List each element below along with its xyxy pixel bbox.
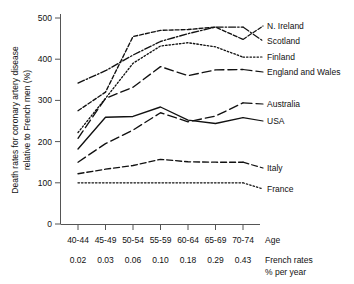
x-axis-secondary-title-line2: % per year xyxy=(265,267,306,277)
series-leader-england-and-wales xyxy=(243,70,263,73)
series-line-italy xyxy=(78,159,243,173)
line-chart: 0100200300400500 40-4445-4950-5455-5960-… xyxy=(0,0,354,284)
series-leader-france xyxy=(243,183,263,189)
series-label-france: France xyxy=(267,184,294,194)
x-axis-secondary-tick-labels: 0.020.030.060.100.180.290.43 xyxy=(70,255,252,265)
series-label-n-ireland: N. Ireland xyxy=(267,21,304,31)
series-line-scotland xyxy=(78,27,243,83)
x-secondary-tick-label: 0.10 xyxy=(152,255,169,265)
series-leader-scotland xyxy=(243,27,263,41)
x-tick-label: 65-69 xyxy=(205,235,227,245)
x-tick-label: 45-49 xyxy=(95,235,117,245)
series-label-scotland: Scotland xyxy=(267,36,300,46)
series-labels: N. IrelandScotlandFinlandEngland and Wal… xyxy=(267,21,340,194)
x-secondary-tick-label: 0.29 xyxy=(207,255,224,265)
x-secondary-tick-label: 0.02 xyxy=(70,255,87,265)
y-tick-label: 400 xyxy=(38,54,52,64)
x-axis-tick-labels: 40-4445-4950-5455-5960-6465-6970-74 xyxy=(67,235,254,245)
x-tick-label: 55-59 xyxy=(150,235,172,245)
x-secondary-tick-label: 0.18 xyxy=(180,255,197,265)
y-axis-tick-labels: 0100200300400500 xyxy=(38,13,52,229)
x-tick-label: 50-54 xyxy=(122,235,144,245)
x-tick-label: 70-74 xyxy=(232,235,254,245)
y-axis-title-line1: Death rates for coronary artery disease xyxy=(10,46,20,194)
x-axis-secondary-title-line1: French rates xyxy=(265,255,313,265)
chart-container: 0100200300400500 40-4445-4950-5455-5960-… xyxy=(0,0,354,284)
y-tick-label: 100 xyxy=(38,178,52,188)
series-leader-italy xyxy=(243,162,263,168)
series-leader-usa xyxy=(243,118,263,121)
series-leader-n-ireland xyxy=(243,26,263,39)
series-leader-lines xyxy=(243,26,263,189)
series-label-australia: Australia xyxy=(267,99,300,109)
y-tick-label: 0 xyxy=(47,219,52,229)
y-axis-title-line2: relative to French men (%) xyxy=(22,70,32,170)
y-tick-label: 500 xyxy=(38,13,52,23)
series-label-england-and-wales: England and Wales xyxy=(267,67,340,77)
x-secondary-tick-label: 0.06 xyxy=(125,255,142,265)
y-axis-ticks xyxy=(55,18,61,224)
series-line-england-and-wales xyxy=(78,67,243,139)
x-secondary-tick-label: 0.43 xyxy=(235,255,252,265)
series-line-n-ireland xyxy=(78,27,243,111)
series-line-finland xyxy=(78,43,243,133)
y-tick-label: 200 xyxy=(38,137,52,147)
series-label-usa: USA xyxy=(267,116,285,126)
series-leader-australia xyxy=(243,103,263,104)
x-axis-title: Age xyxy=(265,235,280,245)
series-line-australia xyxy=(78,103,243,162)
x-tick-label: 60-64 xyxy=(177,235,199,245)
y-tick-label: 300 xyxy=(38,95,52,105)
x-secondary-tick-label: 0.03 xyxy=(97,255,114,265)
series-lines xyxy=(78,27,243,183)
series-label-finland: Finland xyxy=(267,52,295,62)
x-axis-ticks xyxy=(78,225,243,231)
x-tick-label: 40-44 xyxy=(67,235,89,245)
series-label-italy: Italy xyxy=(267,163,283,173)
